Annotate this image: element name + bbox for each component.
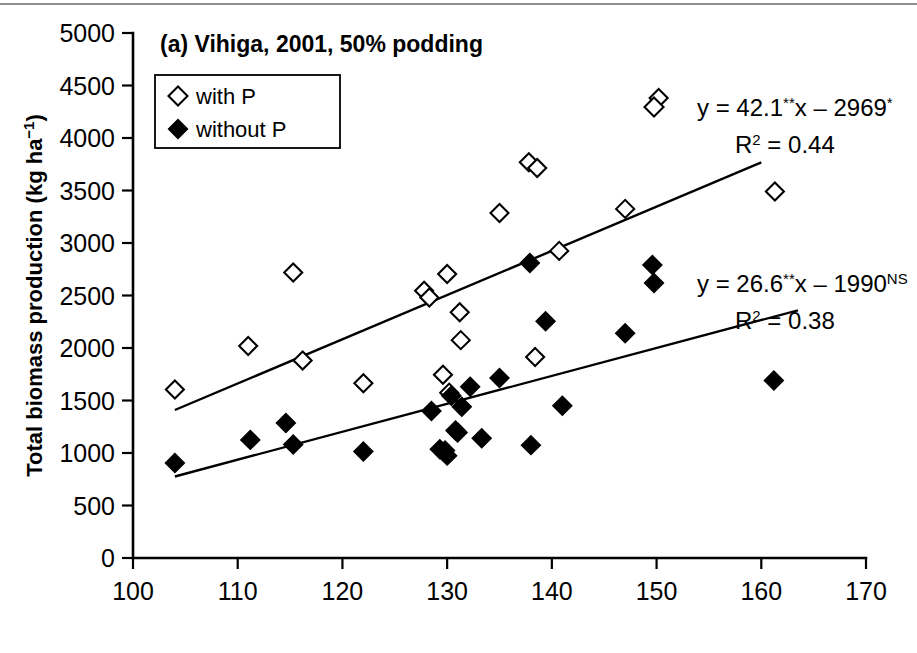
legend-label-with-p: with P: [195, 84, 256, 109]
annotation-marker-without-p: [645, 274, 664, 293]
r-squared-symbol-with-p: R: [735, 131, 752, 158]
y-axis-title-superscript: −1: [20, 122, 37, 139]
y-axis-tick-label: 2000: [59, 334, 115, 362]
y-axis-tick-label: 5000: [59, 19, 115, 47]
equation-without-p: y = 26.6**x – 1990NS: [697, 270, 908, 298]
scatter-plot: 0500100015002000250030003500400045005000…: [0, 0, 917, 653]
data-point: [354, 374, 372, 392]
data-point: [165, 453, 184, 472]
data-point: [616, 200, 634, 218]
data-point: [284, 435, 303, 454]
data-point: [239, 337, 257, 355]
y-axis-tick-label: 1000: [59, 439, 115, 467]
y-axis-tick-label: 4000: [59, 124, 115, 152]
equation-significance-intercept-without-p: NS: [887, 270, 908, 287]
legend-label-without-p: without P: [195, 117, 287, 142]
equation-intercept-with-p: x – 2969: [795, 94, 887, 121]
r-squared-symbol-without-p: R: [735, 307, 752, 334]
data-point: [536, 312, 555, 331]
y-axis-tick-label: 0: [101, 544, 115, 572]
regression-line-without-p: [175, 310, 798, 476]
figure-container: 0500100015002000250030003500400045005000…: [0, 0, 917, 653]
data-point: [461, 377, 480, 396]
data-point: [434, 366, 452, 384]
y-axis-title: Total biomass production (kg ha−1): [20, 114, 48, 477]
equation-with-p: y = 42.1**x – 2969*: [697, 94, 893, 122]
equation-significance-slope-with-p: **: [783, 94, 795, 111]
y-axis-tick-label: 4500: [59, 72, 115, 100]
r-squared-without-p: R2 = 0.38: [735, 307, 835, 335]
x-axis-tick-label: 120: [322, 577, 364, 605]
x-axis-tick-label: 100: [112, 577, 154, 605]
equation-significance-intercept-with-p: *: [887, 94, 893, 111]
data-point: [276, 414, 295, 433]
x-axis-tick-label: 140: [531, 577, 573, 605]
x-axis-tick-label: 170: [845, 577, 887, 605]
x-axis-tick-label: 110: [218, 577, 258, 605]
data-point: [490, 368, 509, 387]
y-axis-title-tail: ): [22, 114, 47, 121]
legend-marker-open-diamond: [169, 87, 188, 106]
legend-marker-filled-diamond: [169, 120, 188, 139]
data-point: [438, 265, 456, 283]
data-point: [284, 263, 302, 281]
data-point: [166, 380, 184, 398]
y-axis-tick-label: 1500: [59, 387, 115, 415]
data-point: [354, 442, 373, 461]
data-point: [616, 324, 635, 343]
data-point: [472, 429, 491, 448]
data-point: [521, 436, 540, 455]
r-squared-with-p: R2 = 0.44: [735, 131, 835, 159]
data-point: [422, 402, 441, 421]
data-point: [553, 396, 572, 415]
r-squared-exponent-with-p: 2: [752, 131, 760, 148]
data-point: [764, 371, 783, 390]
r-squared-value-without-p: = 0.38: [761, 307, 835, 334]
y-axis-tick-label: 500: [73, 492, 115, 520]
y-axis-tick-label: 3000: [59, 229, 115, 257]
regression-line-with-p: [175, 162, 761, 410]
data-point: [643, 256, 662, 275]
x-axis-tick-label: 160: [740, 577, 782, 605]
r-squared-value-with-p: = 0.44: [761, 131, 835, 158]
data-point: [766, 183, 784, 201]
data-point: [451, 303, 469, 321]
y-axis-tick-label: 3500: [59, 177, 115, 205]
equation-slope-without-p: y = 26.6: [697, 270, 783, 297]
y-axis-tick-label: 2500: [59, 282, 115, 310]
data-point: [491, 204, 509, 222]
x-axis-tick-label: 150: [636, 577, 678, 605]
equation-intercept-without-p: x – 1990: [795, 270, 887, 297]
y-axis-title-base: Total biomass production (kg ha: [22, 138, 47, 477]
data-point: [526, 348, 544, 366]
x-axis-tick-label: 130: [426, 577, 468, 605]
panel-title: (a) Vihiga, 2001, 50% podding: [160, 31, 483, 57]
data-point: [452, 331, 470, 349]
data-point: [241, 430, 260, 449]
r-squared-exponent-without-p: 2: [752, 307, 760, 324]
equation-slope-with-p: y = 42.1: [697, 94, 783, 121]
equation-significance-slope-without-p: **: [783, 270, 795, 287]
